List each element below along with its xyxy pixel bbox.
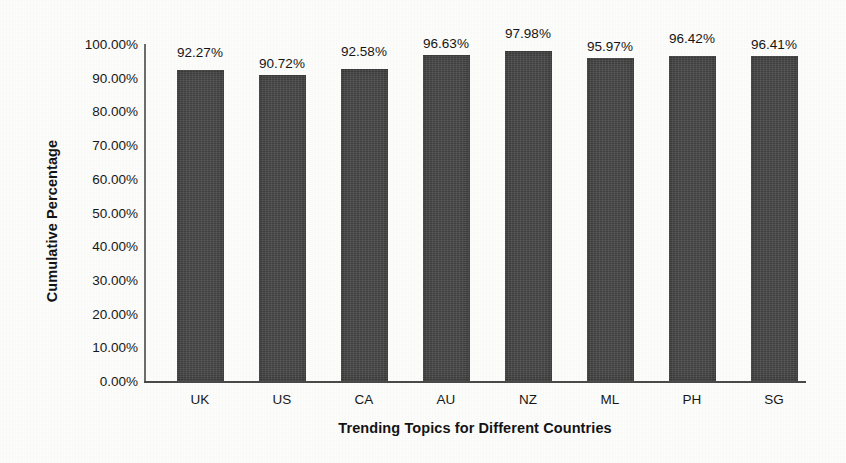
bar-value-label: 92.27% xyxy=(159,45,241,60)
bar-ca[interactable] xyxy=(341,69,388,381)
bar-value-label: 97.98% xyxy=(487,26,569,41)
bar-slot xyxy=(569,44,651,381)
chart-figure: Cumulative Percentage 100.00%90.00%80.00… xyxy=(0,0,846,463)
y-tick-label: 30.00% xyxy=(6,272,138,287)
y-tick-label: 20.00% xyxy=(6,306,138,321)
bar-value-label: 96.42% xyxy=(651,31,733,46)
bar-value-label: 96.41% xyxy=(733,37,815,52)
y-tick-label: 10.00% xyxy=(6,340,138,355)
y-axis-tick-labels: 100.00%90.00%80.00%70.00%60.00%50.00%40.… xyxy=(0,0,138,463)
x-tick-label-ph: PH xyxy=(651,392,733,407)
bar-slot xyxy=(405,44,487,381)
plot-area: UKUSCAAUNZMLPHSG xyxy=(144,44,806,383)
bar-slot xyxy=(159,44,241,381)
x-tick-label-ca: CA xyxy=(323,392,405,407)
bar-value-label: 90.72% xyxy=(241,56,323,71)
y-axis-line xyxy=(144,44,146,383)
y-tick-label: 80.00% xyxy=(6,104,138,119)
x-axis-line xyxy=(144,381,806,383)
x-tick-label-sg: SG xyxy=(733,392,815,407)
x-tick-label-ml: ML xyxy=(569,392,651,407)
bar-us[interactable] xyxy=(259,75,306,381)
y-tick-label: 0.00% xyxy=(6,374,138,389)
x-tick-label-us: US xyxy=(241,392,323,407)
x-tick-label-au: AU xyxy=(405,392,487,407)
y-tick-label: 60.00% xyxy=(6,171,138,186)
x-tick-label-nz: NZ xyxy=(487,392,569,407)
bar-slot xyxy=(323,44,405,381)
y-tick-label: 70.00% xyxy=(6,138,138,153)
bar-au[interactable] xyxy=(423,55,470,381)
x-axis-title: Trending Topics for Different Countries xyxy=(144,420,806,436)
bar-slot xyxy=(241,44,323,381)
bar-value-label: 92.58% xyxy=(323,44,405,59)
bar-value-label: 95.97% xyxy=(569,39,651,54)
x-tick-label-uk: UK xyxy=(159,392,241,407)
bar-sg[interactable] xyxy=(751,56,798,381)
bar-ph[interactable] xyxy=(669,56,716,381)
bar-slot xyxy=(487,44,569,381)
bar-slot xyxy=(733,44,815,381)
y-tick-label: 90.00% xyxy=(6,70,138,85)
y-tick-label: 40.00% xyxy=(6,239,138,254)
bar-slot xyxy=(651,44,733,381)
bar-nz[interactable] xyxy=(505,51,552,381)
y-tick-label: 50.00% xyxy=(6,205,138,220)
bar-value-label: 96.63% xyxy=(405,36,487,51)
bar-ml[interactable] xyxy=(587,58,634,381)
bar-uk[interactable] xyxy=(177,70,224,381)
y-tick-label: 100.00% xyxy=(6,37,138,52)
